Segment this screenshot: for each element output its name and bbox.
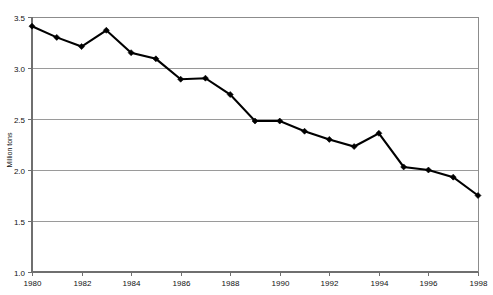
x-tick-label-1986: 1986 [173, 279, 191, 288]
y-axis-title: Million tons [6, 132, 13, 168]
x-tick-label-1982: 1982 [74, 279, 92, 288]
x-tick-label-1996: 1996 [420, 279, 438, 288]
x-tick-label-1980: 1980 [24, 279, 42, 288]
x-tick-label-1990: 1990 [272, 279, 290, 288]
y-tick-label-3.5: 3.5 [14, 14, 26, 23]
line-chart: 1.01.52.02.53.03.5 198019821984198619881… [0, 0, 493, 295]
x-tick-label-1998: 1998 [470, 279, 488, 288]
y-tick-label-2: 2.0 [14, 167, 26, 176]
x-tick-label-1984: 1984 [123, 279, 141, 288]
y-tick-label-2.5: 2.5 [14, 116, 26, 125]
x-tick-label-1988: 1988 [222, 279, 240, 288]
chart-container: 1.01.52.02.53.03.5 198019821984198619881… [0, 0, 493, 295]
x-tick-label-1994: 1994 [371, 279, 389, 288]
x-tick-label-1992: 1992 [321, 279, 339, 288]
y-tick-label-1.5: 1.5 [14, 218, 26, 227]
y-tick-label-1: 1.0 [14, 269, 26, 278]
y-tick-label-3: 3.0 [14, 65, 26, 74]
